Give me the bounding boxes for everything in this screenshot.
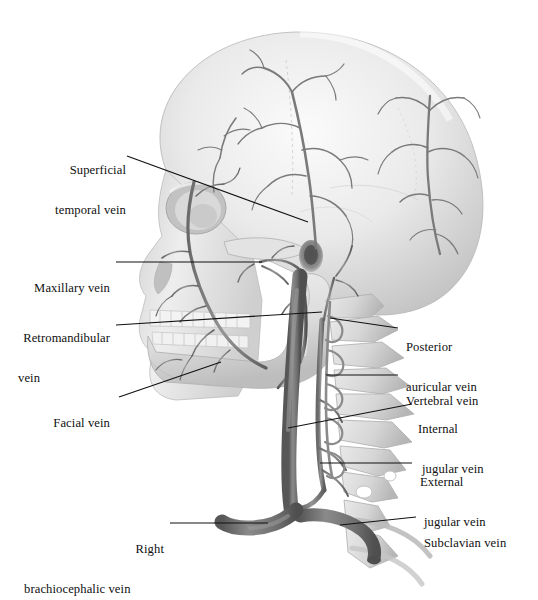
label-line-1: Posterior	[406, 341, 477, 354]
label-superficial-temporal-vein: Superficial temporal vein	[34, 137, 126, 231]
label-line-1: Internal	[418, 423, 484, 436]
label-maxillary-vein: Maxillary vein	[18, 255, 110, 309]
label-line-2: temporal vein	[34, 204, 126, 217]
label-line-1: External	[420, 476, 486, 489]
label-retromandibular-vein: Retromandibular vein	[18, 305, 110, 399]
label-line-1: Maxillary vein	[18, 282, 110, 295]
right-brachiocephalic-vein	[222, 510, 296, 528]
external-acoustic-meatus	[299, 240, 323, 272]
label-line-2: brachiocephalic vein	[24, 583, 164, 596]
label-line-2: vein	[18, 372, 110, 385]
label-facial-vein: Facial vein	[26, 390, 110, 444]
orbit	[166, 182, 226, 234]
label-line-1: Facial vein	[26, 417, 110, 430]
label-right-brachiocephalic-vein: Right brachiocephalic vein	[56, 516, 164, 600]
label-subclavian-vein: Subclavian vein	[424, 510, 506, 564]
label-line-1: Subclavian vein	[424, 537, 506, 550]
label-line-1: Right	[56, 543, 164, 556]
label-line-1: Superficial	[34, 164, 126, 177]
internal-jugular-vein	[288, 276, 300, 514]
label-line-1: Retromandibular	[18, 332, 110, 345]
